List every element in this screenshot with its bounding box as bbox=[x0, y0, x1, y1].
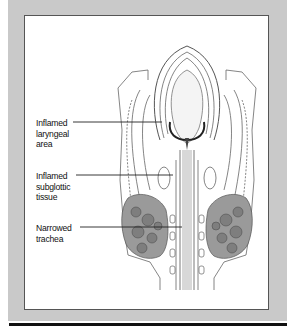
label-narrowed-trachea: Narrowed trachea bbox=[36, 223, 72, 244]
label-inflamed-subglottic-tissue: Inflamed subglottic tissue bbox=[36, 171, 70, 203]
larynx-trachea-illustration bbox=[0, 0, 290, 332]
label-inflamed-laryngeal-area: Inflamed laryngeal area bbox=[36, 118, 69, 150]
